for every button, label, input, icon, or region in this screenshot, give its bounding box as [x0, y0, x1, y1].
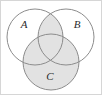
set-label-b: B — [74, 18, 81, 30]
set-label-c: C — [46, 70, 54, 82]
set-label-a: A — [20, 18, 28, 30]
venn-diagram-canvas: A B C — [0, 0, 102, 95]
venn-diagram-figure: A B C — [0, 0, 102, 95]
